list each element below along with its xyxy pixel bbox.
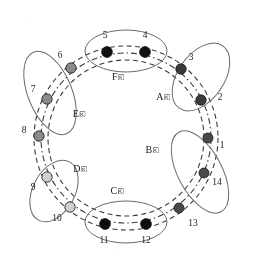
topology-canvas: 1234567891011121314A□×B□×C□×D□×E□×F□× [0,0,254,272]
node-6[interactable] [66,63,76,73]
node-label-13: 13 [188,218,198,228]
node-label-8: 8 [22,125,27,135]
node-1[interactable] [203,133,213,143]
node-9[interactable] [42,172,52,182]
node-3[interactable] [176,64,186,74]
node-12[interactable] [141,219,152,230]
zone-label-D: D□× [73,163,87,174]
node-label-12: 12 [141,235,151,245]
node-label-11: 11 [99,235,108,245]
ring-inner-ring [48,60,204,216]
node-4[interactable] [140,47,151,58]
node-5[interactable] [102,47,113,58]
node-label-2: 2 [218,92,223,102]
ring-outer-ring [34,46,218,230]
node-11[interactable] [100,219,111,230]
labels-layer: 1234567891011121314A□×B□×C□×D□×E□×F□× [22,30,225,245]
node-label-9: 9 [31,182,36,192]
node-8[interactable] [34,131,44,141]
node-14[interactable] [199,168,209,178]
zone-ellipse-C [85,201,167,243]
ring-topology-figure: 1234567891011121314A□×B□×C□×D□×E□×F□× [0,0,254,272]
node-10[interactable] [65,202,75,212]
ring-links-layer [34,46,218,230]
node-2[interactable] [196,95,206,105]
ring-middle-ring [41,53,211,223]
zone-label-C: C□× [110,185,124,196]
node-label-14: 14 [212,177,222,187]
zone-label-F: F□× [112,71,125,82]
zone-label-B: B□× [145,144,159,155]
node-label-6: 6 [58,50,63,60]
node-label-7: 7 [31,84,36,94]
zone-label-E: E□× [73,108,86,119]
node-label-1: 1 [220,140,225,150]
node-13[interactable] [174,203,184,213]
node-label-4: 4 [143,30,148,40]
zone-label-A: A□× [156,91,170,102]
node-label-10: 10 [52,213,62,223]
node-7[interactable] [42,94,52,104]
node-label-5: 5 [103,30,108,40]
zone-ellipse-A [160,33,241,122]
node-label-3: 3 [189,52,194,62]
